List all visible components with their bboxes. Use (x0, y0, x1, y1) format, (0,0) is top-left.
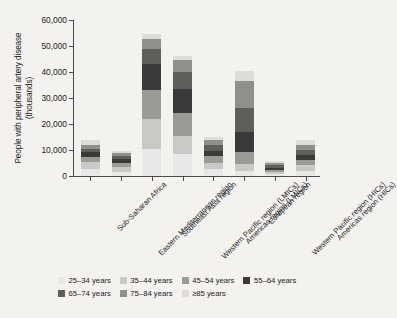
y-tick-mark (69, 20, 73, 21)
bar-segment (112, 172, 131, 176)
legend-label: 25–34 years (69, 276, 111, 285)
y-tick-label: 20,000 (41, 119, 67, 129)
legend-swatch (58, 277, 65, 284)
x-axis-labels: Sub-Saharan AfricaEastern Mediterranean … (73, 180, 323, 264)
legend-label: ≥85 years (192, 289, 226, 298)
x-tick-label: Western Pacific region (HICs) (310, 180, 387, 257)
y-tick-mark (69, 150, 73, 151)
bar-segment (296, 171, 315, 176)
y-tick-mark (69, 46, 73, 47)
legend-item[interactable]: 35–44 years (120, 276, 173, 285)
y-tick-label: 60,000 (41, 15, 67, 25)
chart-legend: 25–34 years35–44 years45–54 years55–64 y… (58, 274, 326, 300)
bar-segment (235, 152, 254, 164)
bar-western-pacific-region-lmics[interactable] (173, 56, 192, 176)
legend-swatch (182, 290, 189, 297)
y-tick-mark (69, 72, 73, 73)
y-axis-title: People with peripheral artery disease (t… (14, 16, 35, 180)
y-tick-label: 30,000 (41, 93, 67, 103)
y-tick-mark (69, 176, 73, 177)
legend-label: 75–84 years (130, 289, 172, 298)
x-tick-label: Americas region (HICs) (335, 180, 397, 242)
legend-item[interactable]: 45–54 years (182, 276, 235, 285)
bar-western-pacific-region-hics[interactable] (265, 161, 284, 176)
x-tick-label: Southeast Asia region (180, 180, 239, 239)
legend-item[interactable]: ≥85 years (182, 289, 226, 298)
y-tick-mark (69, 98, 73, 99)
bar-segment (142, 90, 161, 119)
legend-swatch (120, 277, 127, 284)
legend-swatch (243, 277, 250, 284)
bar-segment (235, 71, 254, 81)
x-axis-line (73, 176, 320, 177)
bar-segment (81, 169, 100, 176)
bar-segment (173, 72, 192, 89)
y-axis-line (73, 20, 74, 177)
bar-segment (265, 174, 284, 176)
y-tick-label: 10,000 (41, 145, 67, 155)
y-tick-label: 0 (62, 171, 67, 181)
bar-segment (204, 169, 223, 176)
legend-label: 35–44 years (130, 276, 172, 285)
bar-segment (142, 119, 161, 149)
bar-segment (81, 162, 100, 169)
legend-label: 55–64 years (254, 276, 296, 285)
y-tick-label: 40,000 (41, 67, 67, 77)
bar-eastern-mediterranean-region[interactable] (112, 151, 131, 176)
bar-americas-region-hics[interactable] (296, 140, 315, 176)
x-tick-label: Sub-Saharan Africa (116, 180, 169, 233)
bar-segment (235, 171, 254, 176)
legend-item[interactable]: 55–64 years (243, 276, 296, 285)
bar-european-region[interactable] (235, 71, 254, 176)
bar-segment (173, 154, 192, 176)
bar-segment (235, 81, 254, 109)
legend-row: 65–74 years75–84 years≥85 years (58, 287, 326, 300)
legend-row: 25–34 years35–44 years45–54 years55–64 y… (58, 274, 326, 287)
plot-area: 010,00020,00030,00040,00050,00060,000 (73, 20, 319, 176)
bar-segment (235, 132, 254, 152)
bar-sub-saharan-africa[interactable] (81, 140, 100, 176)
legend-label: 45–54 years (192, 276, 234, 285)
bar-segment (142, 39, 161, 49)
bar-americas-region-lmics[interactable] (204, 137, 223, 176)
bar-segment (173, 60, 192, 72)
y-tick-label: 50,000 (41, 41, 67, 51)
y-tick-mark (69, 124, 73, 125)
legend-item[interactable]: 65–74 years (58, 289, 111, 298)
legend-swatch (120, 290, 127, 297)
legend-swatch (58, 290, 65, 297)
bar-segment (142, 49, 161, 64)
bar-segment (173, 136, 192, 154)
bar-southeast-asia-region[interactable] (142, 34, 161, 176)
bar-segment (173, 89, 192, 113)
bar-segment (173, 113, 192, 136)
legend-item[interactable]: 25–34 years (58, 276, 111, 285)
bar-segment (142, 149, 161, 176)
bar-segment (235, 164, 254, 171)
legend-item[interactable]: 75–84 years (120, 289, 173, 298)
bar-segment (235, 108, 254, 132)
bar-segment (142, 64, 161, 90)
legend-label: 65–74 years (69, 289, 111, 298)
legend-swatch (182, 277, 189, 284)
y-axis-title-container: People with peripheral artery disease (t… (14, 16, 40, 180)
